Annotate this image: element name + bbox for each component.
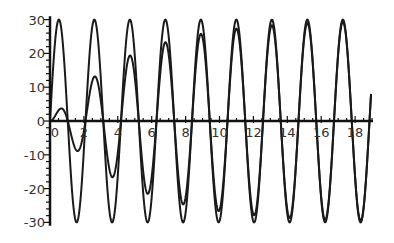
x-tick-label: 4 <box>114 125 122 140</box>
x-tick-label: 0 <box>51 125 59 140</box>
y-tick-label: -30 <box>24 215 45 230</box>
x-tick-label: 10 <box>211 125 228 140</box>
x-tick-label: 16 <box>313 125 330 140</box>
y-tick-label: 20 <box>28 46 45 61</box>
x-tick-label: 18 <box>347 125 364 140</box>
y-tick-label: -10 <box>24 148 45 163</box>
x-tick-label: 14 <box>279 125 296 140</box>
x-tick-label: 12 <box>245 125 262 140</box>
y-tick-label: 0 <box>37 114 45 129</box>
plot-axes <box>44 16 373 226</box>
y-tick-label: 10 <box>28 80 45 95</box>
line-chart: 024681012141618 -30-20-100102030 <box>0 0 394 243</box>
x-tick-labels: 024681012141618 <box>51 125 364 140</box>
x-tick-label: 8 <box>181 125 189 140</box>
x-tick-label: 6 <box>148 125 156 140</box>
x-tick-label: 2 <box>80 125 88 140</box>
y-tick-label: -20 <box>24 182 45 197</box>
y-tick-label: 30 <box>28 13 45 28</box>
y-tick-labels: -30-20-100102030 <box>24 13 45 231</box>
